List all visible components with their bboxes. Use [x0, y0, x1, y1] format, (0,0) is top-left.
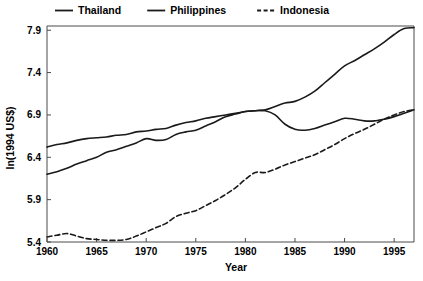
x-tick-label: 1985: [284, 246, 307, 257]
x-tick-label: 1990: [333, 246, 356, 257]
y-tick-label: 7.4: [27, 67, 41, 78]
y-tick-label: 6.4: [27, 152, 41, 163]
x-tick-label: 1960: [36, 246, 59, 257]
y-tick-label: 7.9: [27, 25, 41, 36]
chart-legend: ThailandPhilippinesIndonesia: [55, 4, 329, 16]
x-tick-label: 1980: [234, 246, 257, 257]
y-tick-label: 6.9: [27, 109, 41, 120]
x-axis-title: Year: [225, 261, 247, 273]
y-tick-label: 5.4: [27, 237, 41, 248]
x-tick-label: 1970: [135, 246, 158, 257]
chart-background: [0, 0, 423, 281]
legend-label-philippines: Philippines: [170, 4, 226, 16]
y-axis-title: ln(1994 US$): [4, 106, 16, 169]
legend-label-indonesia: Indonesia: [280, 4, 329, 16]
chart-figure: ThailandPhilippinesIndonesia 19601965197…: [0, 0, 423, 281]
x-tick-label: 1995: [383, 246, 406, 257]
line-chart: ThailandPhilippinesIndonesia 19601965197…: [0, 0, 423, 281]
x-tick-label: 1965: [85, 246, 108, 257]
y-tick-label: 5.9: [27, 194, 41, 205]
legend-label-thailand: Thailand: [78, 4, 121, 16]
x-tick-label: 1975: [185, 246, 208, 257]
